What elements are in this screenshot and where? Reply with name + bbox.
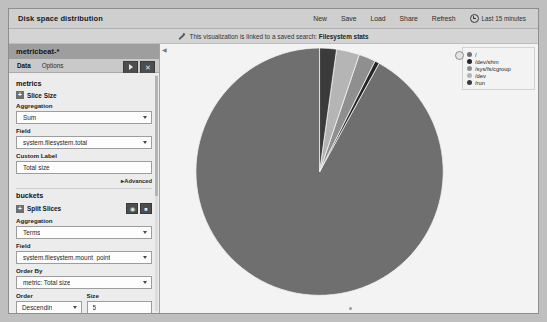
chevron-down-icon xyxy=(143,256,147,259)
metric-custom-label-value: Total size xyxy=(23,164,50,171)
editor-tab-actions: ✕ xyxy=(123,61,155,74)
bucket-order-by-value: metric: Total size xyxy=(23,279,70,286)
expand-icon[interactable]: + xyxy=(16,205,24,213)
editor-sidebar: metricbeat-* Data Options ✕ metrics xyxy=(9,44,160,313)
nav-load-button[interactable]: Load xyxy=(363,12,392,25)
chevron-down-icon xyxy=(73,306,77,309)
editor-tabs: Data Options ✕ xyxy=(9,59,159,73)
legend-toggle-button[interactable] xyxy=(455,51,464,60)
chart-area: ◀ / /dev/shm /sys/fs/cgroup xyxy=(160,44,538,313)
expand-icon[interactable]: + xyxy=(16,91,24,99)
nav-refresh-button[interactable]: Refresh xyxy=(425,12,463,25)
visualize-window: Disk space distribution New Save Load Sh… xyxy=(8,8,539,314)
chevron-down-icon xyxy=(143,281,147,284)
bucket-order-size-row: Order Descendin Size 5 xyxy=(16,289,152,313)
tab-data[interactable]: Data xyxy=(15,60,37,71)
legend-item[interactable]: /run xyxy=(465,79,532,86)
chevron-down-icon xyxy=(143,231,147,234)
bucket-remove-button[interactable]: ■ xyxy=(140,203,152,214)
section-divider xyxy=(16,188,152,189)
trash-icon: ■ xyxy=(144,206,147,212)
nav-save-button[interactable]: Save xyxy=(334,12,364,25)
aggregation-panel: metrics + Slice Size Aggregation Sum Fie… xyxy=(9,73,159,313)
chevron-down-icon xyxy=(143,141,147,144)
metrics-section-title: metrics xyxy=(16,79,152,88)
legend-item-label: / xyxy=(475,52,477,58)
metric-custom-label-label: Custom Label xyxy=(16,152,152,159)
linked-search-bar: This visualization is linked to a saved … xyxy=(9,29,538,44)
bucket-disable-button[interactable]: ◉ xyxy=(126,203,138,214)
legend-item-label: /run xyxy=(475,80,485,86)
legend-color-swatch xyxy=(467,66,472,71)
play-icon xyxy=(129,64,133,70)
time-range-label: Last 15 minutes xyxy=(482,15,526,22)
bucket-size-label: Size xyxy=(87,292,153,299)
clock-icon xyxy=(470,14,479,23)
top-nav: New Save Load Share Refresh Last 15 minu… xyxy=(306,11,538,26)
bucket-order-value: Descendin xyxy=(22,304,52,311)
legend-color-swatch xyxy=(467,80,472,85)
metric-field-select[interactable]: system.filesystem.total xyxy=(16,136,152,149)
page-title: Disk space distribution xyxy=(9,14,103,23)
discard-changes-button[interactable]: ✕ xyxy=(140,61,155,74)
metric-field-value: system.filesystem.total xyxy=(23,139,87,146)
legend-item[interactable]: /dev/shm xyxy=(465,58,532,65)
tab-options[interactable]: Options xyxy=(40,60,70,71)
nav-share-button[interactable]: Share xyxy=(393,12,425,25)
metric-field-label: Field xyxy=(16,127,152,134)
top-bar: Disk space distribution New Save Load Sh… xyxy=(9,9,538,29)
bucket-field-label: Field xyxy=(16,242,152,249)
index-pattern-label: metricbeat-* xyxy=(16,47,59,56)
legend-item-label: /sys/fs/cgroup xyxy=(475,66,511,72)
sidebar-scroll-thumb[interactable] xyxy=(155,76,158,196)
app-root: Disk space distribution New Save Load Sh… xyxy=(0,0,547,322)
legend-item-label: /dev xyxy=(475,73,486,79)
metric-custom-label-input[interactable]: Total size xyxy=(16,161,152,174)
close-icon: ✕ xyxy=(145,64,151,71)
metric-aggregation-label: Aggregation xyxy=(16,102,152,109)
legend-item[interactable]: /dev xyxy=(465,72,532,79)
metric-aggregation-value: Sum xyxy=(23,114,36,121)
legend-color-swatch xyxy=(467,59,472,64)
bucket-order-by-select[interactable]: metric: Total size xyxy=(16,276,152,289)
bucket-field-select[interactable]: system.filesystem.mount_point xyxy=(16,251,152,264)
linked-search-prefix: This visualization is linked to a saved … xyxy=(189,33,318,40)
chevron-down-icon xyxy=(143,116,147,119)
metric-advanced-label: Advanced xyxy=(124,178,152,184)
metric-advanced-link[interactable]: ▸Advanced xyxy=(16,178,152,184)
bucket-aggregation-select[interactable]: Terms xyxy=(16,226,152,239)
chart-legend: / /dev/shm /sys/fs/cgroup /dev xyxy=(462,47,535,90)
chart-focus-indicator xyxy=(349,307,352,310)
legend-item-label: /dev/shm xyxy=(475,59,499,65)
legend-color-swatch xyxy=(467,52,472,57)
nav-new-button[interactable]: New xyxy=(306,12,334,25)
apply-changes-button[interactable] xyxy=(123,61,138,74)
metric-slice-size-label: Slice Size xyxy=(27,92,57,99)
metric-aggregation-select[interactable]: Sum xyxy=(16,111,152,124)
bucket-order-label: Order xyxy=(16,292,82,299)
bucket-order-select[interactable]: Descendin xyxy=(16,301,82,313)
bucket-aggregation-value: Terms xyxy=(23,229,40,236)
bucket-aggregation-label: Aggregation xyxy=(16,217,152,224)
link-icon xyxy=(178,33,185,40)
bucket-order-by-label: Order By xyxy=(16,267,152,274)
bucket-size-value: 5 xyxy=(93,304,97,311)
linked-search-text: This visualization is linked to a saved … xyxy=(189,33,368,40)
index-pattern-header: metricbeat-* xyxy=(9,44,159,59)
bucket-row-actions: ◉ ■ xyxy=(126,203,152,214)
bucket-split-slices-row[interactable]: + Split Slices ◉ ■ xyxy=(16,203,152,214)
legend-item[interactable]: / xyxy=(465,51,532,58)
legend-color-swatch xyxy=(467,73,472,78)
buckets-section-title: buckets xyxy=(16,191,152,200)
body-split: metricbeat-* Data Options ✕ metrics xyxy=(9,44,538,313)
legend-item[interactable]: /sys/fs/cgroup xyxy=(465,65,532,72)
linked-search-name[interactable]: Filesystem stats xyxy=(319,33,369,40)
bucket-split-slices-label: Split Slices xyxy=(27,205,61,212)
eye-icon: ◉ xyxy=(130,206,135,212)
bucket-field-value: system.filesystem.mount_point xyxy=(23,254,110,261)
time-picker-button[interactable]: Last 15 minutes xyxy=(463,11,532,26)
bucket-size-input[interactable]: 5 xyxy=(87,301,153,313)
metric-slice-size-row[interactable]: + Slice Size xyxy=(16,91,152,99)
